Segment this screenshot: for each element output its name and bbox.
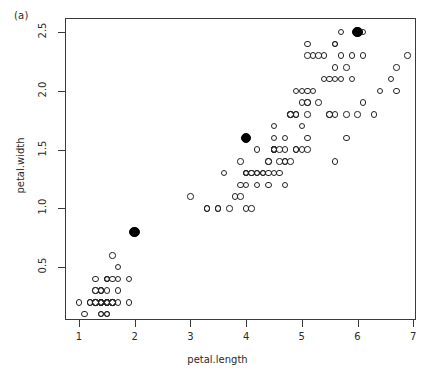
- y-tick-mark: [58, 32, 65, 33]
- x-tick-mark: [413, 320, 414, 327]
- x-tick-mark: [190, 320, 191, 327]
- y-tick-label: 1.5: [37, 136, 48, 160]
- x-tick-label: 1: [64, 331, 94, 342]
- x-tick-label: 6: [343, 331, 373, 342]
- y-tick-label: 2.5: [37, 19, 48, 43]
- y-tick-mark: [58, 91, 65, 92]
- scatter-plot-figure: (a) petal.length petal.width 12345670.51…: [0, 0, 435, 383]
- x-tick-label: 2: [120, 331, 150, 342]
- x-tick-mark: [79, 320, 80, 327]
- y-axis-title: petal.width: [15, 86, 26, 246]
- y-tick-mark: [58, 150, 65, 151]
- x-tick-mark: [358, 320, 359, 327]
- x-tick-label: 4: [231, 331, 261, 342]
- x-axis-title: petal.length: [0, 354, 435, 365]
- y-tick-mark: [58, 267, 65, 268]
- y-tick-label: 1.0: [37, 195, 48, 219]
- y-tick-mark: [58, 208, 65, 209]
- x-tick-label: 7: [398, 331, 428, 342]
- x-tick-label: 5: [287, 331, 317, 342]
- panel-label: (a): [14, 10, 29, 21]
- x-tick-mark: [246, 320, 247, 327]
- y-tick-label: 0.5: [37, 254, 48, 278]
- y-tick-label: 2.0: [37, 77, 48, 101]
- x-tick-mark: [302, 320, 303, 327]
- plot-frame: [65, 18, 416, 320]
- x-tick-label: 3: [175, 331, 205, 342]
- x-tick-mark: [135, 320, 136, 327]
